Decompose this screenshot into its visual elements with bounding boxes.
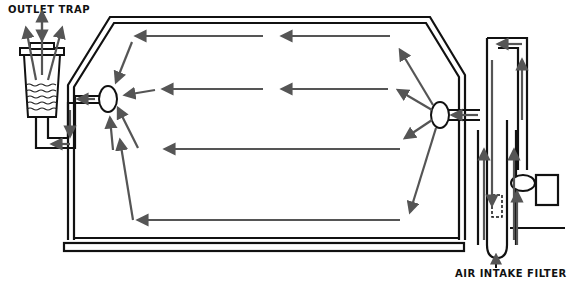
air-intake-filter (478, 38, 565, 268)
chamber (64, 17, 465, 251)
chamber-flow-arrows (110, 36, 436, 220)
air-flow-diagram (0, 0, 577, 285)
inlet-nozzle (431, 102, 480, 128)
outlet-trap (20, 12, 117, 148)
